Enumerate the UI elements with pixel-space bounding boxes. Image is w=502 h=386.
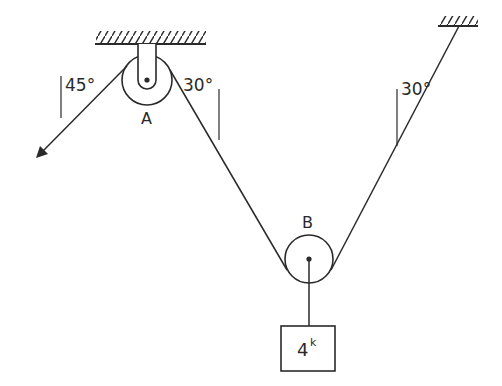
rope-a-to-b <box>170 70 287 270</box>
rope-b-to-anchor <box>331 26 459 270</box>
pulley-a <box>122 44 172 105</box>
weight-value: 4 <box>297 339 308 360</box>
diagram-canvas: A 45° 30° 30° B 4 k <box>0 0 502 386</box>
axle-a-icon <box>144 77 149 82</box>
ceiling-support-left <box>95 31 206 44</box>
weight-unit: k <box>310 336 317 349</box>
pulley-a-label: A <box>141 109 152 128</box>
pulley-diagram: A 45° 30° 30° B 4 k <box>0 0 502 386</box>
pulley-b-label: B <box>302 213 313 232</box>
angle-label-45: 45° <box>65 75 95 95</box>
angle-label-30-left: 30° <box>183 75 213 95</box>
angle-label-30-right: 30° <box>401 79 431 99</box>
ceiling-anchor-right <box>438 16 478 26</box>
